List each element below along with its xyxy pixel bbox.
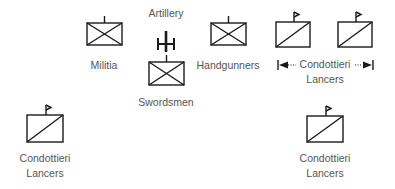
militia-label: Militia (91, 58, 118, 73)
handgunners-symbol-icon (211, 16, 246, 45)
handgunners-label: Handgunners (196, 58, 259, 73)
lancers-bottom-right-label-line1: Condottieri (300, 151, 351, 166)
artillery-label: Artillery (148, 6, 183, 21)
swordsmen-symbol-icon (149, 55, 184, 85)
lancers-top-label-line2: Lancers (306, 72, 343, 87)
lancers-symbol-icon (27, 105, 63, 142)
militia-symbol-icon (87, 16, 122, 45)
artillery-icon (158, 31, 174, 52)
lancers-symbol-icon (307, 106, 343, 142)
lancers-bottom-left-label-line1: Condottieri (20, 151, 71, 166)
lancers-bottom-right-label-line2: Lancers (306, 166, 343, 181)
lancers-top-label-line1: Condottieri (300, 57, 351, 72)
swordsmen-label: Swordsmen (138, 95, 193, 110)
lancers-bottom-left-label-line2: Lancers (26, 166, 63, 181)
lancers-symbol-icon (276, 12, 310, 47)
lancers-symbol-icon (338, 12, 372, 47)
